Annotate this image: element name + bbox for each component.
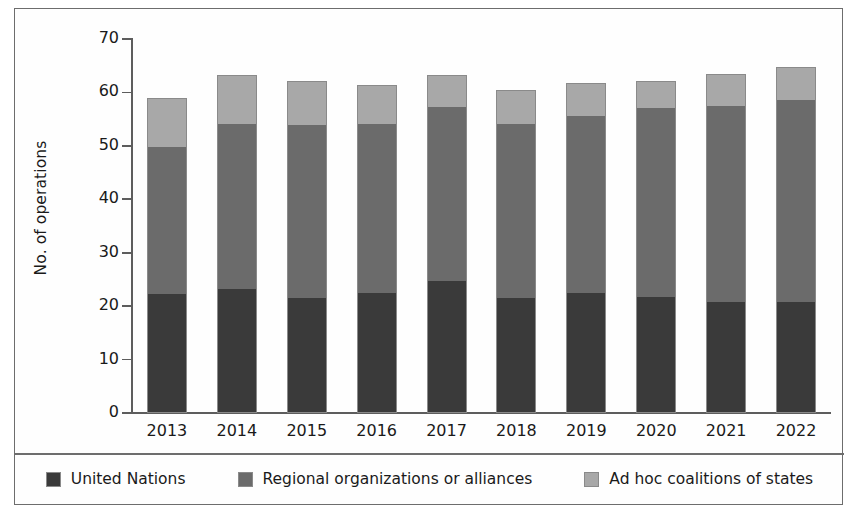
bar-segment[interactable] — [218, 124, 256, 289]
legend-item[interactable]: United Nations — [46, 470, 186, 488]
x-axis-tick-label: 2014 — [199, 421, 275, 440]
plot-area: No. of operations 706050403020100 201320… — [15, 9, 844, 449]
bar-segment[interactable] — [218, 76, 256, 124]
stacked-bar[interactable] — [496, 90, 536, 413]
stacked-bar[interactable] — [706, 74, 746, 413]
y-axis-tick-label: 70 — [99, 28, 119, 47]
bar-segment[interactable] — [288, 125, 326, 298]
bar-segment[interactable] — [707, 302, 745, 412]
bar-segment[interactable] — [358, 86, 396, 124]
stacked-bar[interactable] — [217, 75, 257, 413]
bar-group[interactable]: 2022 — [776, 39, 816, 413]
bar-segment[interactable] — [637, 108, 675, 297]
y-axis-tick-label: 40 — [99, 188, 119, 207]
bar-segment[interactable] — [218, 289, 256, 412]
bar-segment[interactable] — [428, 281, 466, 412]
bar-segment[interactable] — [148, 147, 186, 294]
chart-figure: No. of operations 706050403020100 201320… — [14, 8, 843, 505]
bar-segment[interactable] — [497, 298, 535, 412]
stacked-bar[interactable] — [147, 98, 187, 413]
bar-segment[interactable] — [358, 124, 396, 293]
stacked-bar[interactable] — [427, 75, 467, 413]
legend-label: Regional organizations or alliances — [263, 470, 533, 488]
bar-group[interactable]: 2021 — [706, 39, 746, 413]
x-axis-tick-label: 2013 — [129, 421, 205, 440]
legend-item[interactable]: Ad hoc coalitions of states — [584, 470, 813, 488]
bar-segment[interactable] — [288, 298, 326, 412]
bar-group[interactable]: 2015 — [287, 39, 327, 413]
legend-label: Ad hoc coalitions of states — [609, 470, 813, 488]
bar-segment[interactable] — [637, 297, 675, 412]
stacked-bar[interactable] — [566, 83, 606, 413]
bar-segment[interactable] — [777, 68, 815, 100]
stacked-bar[interactable] — [357, 85, 397, 413]
bar-group[interactable]: 2013 — [147, 39, 187, 413]
x-axis-tick-label: 2016 — [339, 421, 415, 440]
bar-segment[interactable] — [707, 106, 745, 301]
bar-segment[interactable] — [707, 75, 745, 106]
bar-group[interactable]: 2020 — [636, 39, 676, 413]
bar-group[interactable]: 2017 — [427, 39, 467, 413]
legend-item[interactable]: Regional organizations or alliances — [238, 470, 533, 488]
bar-segment[interactable] — [637, 82, 675, 108]
bar-segment[interactable] — [497, 91, 535, 124]
bar-segment[interactable] — [148, 99, 186, 147]
bar-segment[interactable] — [428, 76, 466, 107]
x-axis-tick-label: 2019 — [548, 421, 624, 440]
bar-segment[interactable] — [497, 124, 535, 298]
bar-segment[interactable] — [358, 293, 396, 412]
x-axis-tick-label: 2021 — [688, 421, 764, 440]
bar-segment[interactable] — [567, 84, 605, 116]
bar-series-container: 2013201420152016201720182019202020212022 — [132, 39, 831, 413]
x-axis-tick-label: 2015 — [269, 421, 345, 440]
stacked-bar[interactable] — [636, 81, 676, 413]
y-axis-title: No. of operations — [32, 108, 50, 308]
legend-label: United Nations — [71, 470, 186, 488]
x-axis-tick-label: 2022 — [758, 421, 834, 440]
bar-segment[interactable] — [148, 294, 186, 412]
x-axis-tick-label: 2020 — [618, 421, 694, 440]
chart-legend: United NationsRegional organizations or … — [15, 454, 844, 504]
legend-swatch-icon — [238, 472, 253, 487]
bar-segment[interactable] — [777, 100, 815, 302]
bar-group[interactable]: 2016 — [357, 39, 397, 413]
x-axis-tick-label: 2017 — [409, 421, 485, 440]
bar-segment[interactable] — [288, 82, 326, 125]
y-axis-tick-label: 60 — [99, 81, 119, 100]
bar-group[interactable]: 2014 — [217, 39, 257, 413]
bar-segment[interactable] — [428, 107, 466, 281]
bar-segment[interactable] — [777, 302, 815, 412]
y-axis-tick-label: 10 — [99, 349, 119, 368]
bar-group[interactable]: 2018 — [496, 39, 536, 413]
bar-group[interactable]: 2019 — [566, 39, 606, 413]
stacked-bar[interactable] — [287, 81, 327, 413]
y-axis-tick-label: 50 — [99, 135, 119, 154]
y-axis-tick-label: 0 — [109, 402, 119, 421]
stacked-bar[interactable] — [776, 67, 816, 413]
y-axis-tick-label: 20 — [99, 295, 119, 314]
bar-segment[interactable] — [567, 116, 605, 292]
legend-swatch-icon — [46, 472, 61, 487]
bar-segment[interactable] — [567, 293, 605, 412]
y-axis-tick-label: 30 — [99, 242, 119, 261]
x-axis-tick-label: 2018 — [478, 421, 554, 440]
legend-swatch-icon — [584, 472, 599, 487]
